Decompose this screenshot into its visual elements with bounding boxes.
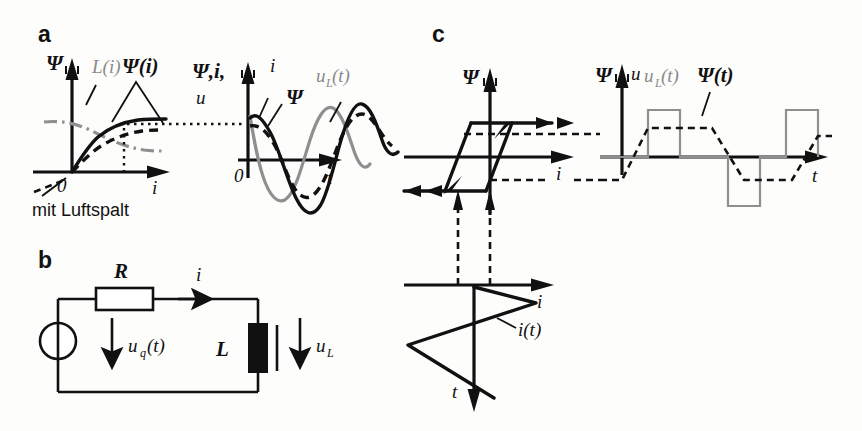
current-t-label: t — [452, 381, 458, 402]
flux-label-leader — [112, 82, 163, 123]
waveform-u-label: u — [631, 63, 641, 84]
figure-container: a Ψ i 0 L(i) — [0, 0, 862, 431]
waveform-t-arrowhead — [805, 151, 828, 164]
hysteresis-upper-arrow-a — [536, 117, 553, 129]
hysteresis-lower-arrow-b — [425, 185, 442, 197]
flux-curve-solid — [72, 119, 166, 172]
panel-a-letter: a — [38, 21, 51, 47]
i-axis-arrowhead — [147, 166, 170, 179]
inductor-voltage-label: u — [316, 335, 326, 356]
hysteresis-lower-arrow-a — [404, 185, 421, 197]
psiu-axis-label-line1: Ψ,i, — [192, 59, 225, 83]
inductance-label-leader — [86, 85, 96, 105]
flux-label-right: Ψ — [286, 85, 305, 109]
panel-c-letter: c — [432, 21, 445, 47]
current-i-arrowhead — [531, 279, 554, 292]
panel-a-right-chart: Ψ,i, u 0 t i Ψ u L (t) — [192, 55, 398, 213]
psiu-axis-label-line2: u — [196, 87, 206, 108]
panel-c: c Ψ i — [404, 21, 832, 412]
source-voltage-label-arg: (t) — [147, 335, 165, 357]
inductor-voltage-label-sub: L — [326, 346, 334, 360]
i-axis-label: i — [152, 177, 157, 198]
projection-arrow-left — [453, 190, 463, 210]
waveform-voltage-label-arg: (t) — [661, 65, 679, 87]
panel-c-hysteresis-chart: Ψ i — [404, 65, 600, 285]
inductance-curve — [44, 121, 164, 151]
airgap-annotation: mit Luftspalt — [32, 200, 129, 220]
source-voltage-label: u — [128, 335, 138, 356]
psi-axis-arrowhead — [66, 58, 79, 80]
voltage-label-group: u L (t) — [316, 65, 350, 90]
psiu-axis-arrowhead — [242, 62, 255, 84]
resistor-symbol — [96, 288, 153, 310]
panel-a: a Ψ i 0 L(i) — [32, 21, 398, 220]
figure-canvas: a Ψ i 0 L(i) — [0, 0, 862, 431]
waveform-flux-label: Ψ(t) — [697, 63, 734, 87]
flux-label: Ψ(i) — [122, 54, 159, 78]
origin-label-right: 0 — [234, 165, 244, 186]
current-t-arrowhead — [468, 389, 481, 412]
waveform-psi-label: Ψ — [595, 63, 614, 87]
waveform-psi-arrowhead — [616, 64, 629, 88]
voltage-label: u — [316, 65, 326, 86]
inductance-label: L(i) — [91, 56, 121, 78]
panel-b-letter: b — [38, 247, 52, 273]
waveform-voltage-label-group: u L (t) — [644, 65, 679, 90]
waveform-flux-label-leader — [702, 92, 710, 116]
current-waveform-label-leader — [497, 318, 516, 328]
flux-label-leader-right — [268, 104, 282, 126]
current-label-circuit: i — [196, 264, 201, 285]
current-waveform-label: i(t) — [518, 319, 541, 341]
waveform-t-label: t — [812, 165, 818, 186]
panel-b: b R i L u q (t) u L — [38, 247, 334, 392]
voltage-label-arg: (t) — [332, 65, 350, 87]
hysteresis-upper-arrow-b — [557, 117, 574, 129]
projection-arrow-right — [485, 190, 495, 210]
panel-c-current-chart: i t i(t) — [404, 279, 554, 413]
panel-c-waveform-chart: Ψ u t u L (t) Ψ(t) — [595, 63, 832, 206]
resistor-label: R — [113, 259, 128, 283]
hysteresis-i-arrowhead — [551, 151, 574, 164]
hysteresis-i-label: i — [556, 163, 561, 184]
source-voltage-label-sub: q — [140, 346, 146, 360]
current-label-leader — [259, 98, 268, 118]
psi-axis-label: Ψ — [46, 51, 65, 75]
current-label: i — [270, 55, 275, 76]
hysteresis-psi-arrowhead — [484, 68, 497, 92]
inductor-label: L — [215, 337, 229, 361]
inductor-voltage-label-group: u L — [316, 335, 334, 360]
source-voltage-label-group: u q (t) — [128, 335, 165, 360]
voltage-pulse-waveform — [600, 110, 818, 206]
inductor-core-symbol — [248, 323, 268, 373]
current-i-label: i — [537, 291, 542, 312]
hysteresis-psi-label: Ψ — [462, 65, 481, 89]
triangular-current-waveform — [408, 287, 536, 398]
flux-trapezoid-waveform — [600, 128, 832, 180]
waveform-voltage-label: u — [644, 65, 654, 86]
